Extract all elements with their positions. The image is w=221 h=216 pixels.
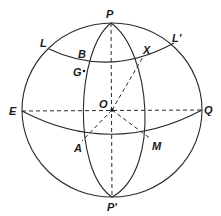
point-O (110, 108, 114, 112)
label-E: E (9, 105, 17, 117)
label-G: G (73, 66, 82, 78)
label-Q: Q (204, 104, 213, 116)
celestial-sphere-diagram: P P' E Q O L L' B X G A M (0, 0, 221, 216)
label-M: M (152, 140, 162, 152)
label-B: B (78, 48, 86, 60)
label-A: A (73, 142, 82, 154)
label-X: X (142, 44, 151, 56)
radius-OA (82, 110, 112, 141)
label-L-prime: L' (172, 32, 182, 44)
label-P-prime: P' (107, 201, 117, 213)
label-O: O (99, 98, 108, 110)
meridian-left (83, 23, 112, 197)
label-P: P (106, 8, 114, 20)
label-L: L (40, 37, 47, 49)
point-G (83, 70, 86, 73)
radius-OX (112, 57, 143, 110)
